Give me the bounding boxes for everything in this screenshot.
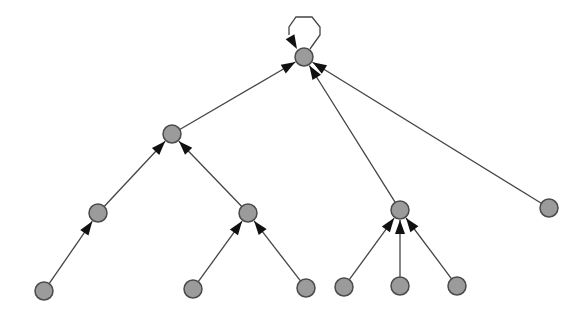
edge: [179, 141, 242, 206]
arrowhead-icon: [281, 62, 296, 73]
arrowhead-icon: [382, 218, 394, 232]
edge: [395, 220, 405, 277]
arrowhead-icon: [230, 221, 242, 235]
nodes-layer: [35, 48, 558, 300]
graph-node-n9: [335, 278, 353, 296]
edge: [254, 221, 300, 281]
graph-node-n7: [184, 280, 202, 298]
graph-node-n5: [540, 199, 558, 217]
graph-node-n2: [89, 204, 107, 222]
edge: [104, 141, 165, 206]
graph-node-n0: [295, 48, 313, 66]
edge: [349, 218, 394, 280]
tree-graph-canvas: [0, 0, 587, 319]
edge: [313, 62, 542, 203]
arrowhead-icon: [395, 220, 405, 234]
edge: [180, 62, 296, 129]
graph-node-n10: [391, 277, 409, 295]
self-loop-edge: [286, 17, 320, 49]
edge: [49, 221, 92, 283]
arrowhead-icon: [254, 221, 267, 235]
arrowhead-icon: [80, 221, 92, 235]
graph-node-n6: [35, 282, 53, 300]
edge: [406, 218, 452, 279]
edge: [198, 221, 242, 282]
arrowhead-icon: [286, 34, 297, 49]
graph-node-n4: [391, 201, 409, 219]
graph-node-n8: [297, 279, 315, 297]
graph-node-n11: [448, 277, 466, 295]
graph-node-n3: [239, 204, 257, 222]
graph-node-n1: [163, 125, 181, 143]
arrowhead-icon: [406, 218, 418, 232]
